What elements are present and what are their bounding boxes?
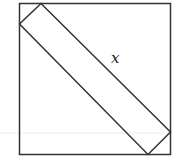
inner-rectangle — [20, 4, 171, 155]
outer-square — [20, 4, 171, 155]
geometry-diagram: x — [0, 0, 181, 159]
length-label-x: x — [111, 49, 120, 67]
